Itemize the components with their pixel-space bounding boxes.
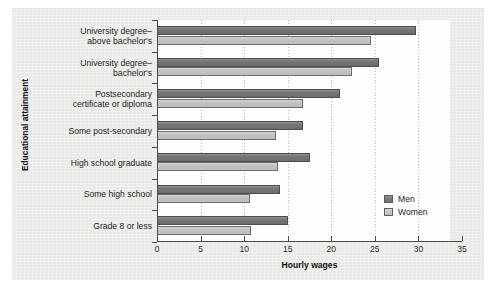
- category-label-line: Postsecondary: [24, 89, 152, 99]
- category-label-3: Some post-secondary: [24, 126, 152, 136]
- category-label-2: Postsecondarycertificate or diploma: [24, 89, 152, 109]
- x-tick-label-35: 35: [457, 244, 466, 254]
- x-tick-20: [331, 236, 332, 241]
- category-label-line: University degree–: [24, 26, 152, 36]
- bar-women-0: [157, 36, 371, 45]
- bar-women-3: [157, 131, 276, 140]
- y-tick-2: [152, 83, 157, 84]
- category-label-line: certificate or diploma: [24, 99, 152, 109]
- category-label-line: University degree–: [24, 58, 152, 68]
- category-label-0: University degree–above bachelor's: [24, 26, 152, 46]
- bar-women-4: [157, 162, 278, 171]
- bar-men-4: [157, 153, 310, 162]
- x-tick-label-0: 0: [155, 244, 160, 254]
- x-tick-25: [375, 236, 376, 241]
- x-tick-10: [244, 236, 245, 241]
- legend-swatch-men-icon: [384, 195, 393, 203]
- bar-men-3: [157, 121, 303, 130]
- gridline-20: [331, 20, 332, 242]
- category-labels: University degree–above bachelor'sUniver…: [20, 8, 152, 280]
- category-label-4: High school graduate: [24, 158, 152, 168]
- x-tick-label-15: 15: [283, 244, 292, 254]
- x-axis-title: Hourly wages: [157, 260, 462, 270]
- category-label-line: above bachelor's: [24, 36, 152, 46]
- legend-item-men: Men: [384, 194, 427, 204]
- category-label-5: Some high school: [24, 189, 152, 199]
- bar-men-1: [157, 58, 379, 67]
- x-tick-0: [157, 236, 158, 241]
- legend-swatch-women-icon: [384, 208, 393, 216]
- y-axis-line: [157, 20, 158, 242]
- bar-women-2: [157, 99, 303, 108]
- bar-women-5: [157, 194, 250, 203]
- category-label-line: bachelor's: [24, 68, 152, 78]
- x-tick-label-30: 30: [414, 244, 423, 254]
- bar-men-6: [157, 216, 288, 225]
- y-tick-6: [152, 210, 157, 211]
- y-tick-0: [152, 20, 157, 21]
- bar-women-6: [157, 226, 251, 235]
- y-tick-3: [152, 115, 157, 116]
- x-tick-30: [418, 236, 419, 241]
- category-label-line: Some post-secondary: [24, 126, 152, 136]
- chart-figure: 05101520253035 University degree–above b…: [12, 8, 484, 280]
- bar-men-0: [157, 26, 416, 35]
- category-label-1: University degree–bachelor's: [24, 58, 152, 78]
- gridline-15: [288, 20, 289, 242]
- chart-legend: Men Women: [384, 194, 427, 220]
- y-tick-5: [152, 179, 157, 180]
- bar-women-1: [157, 67, 352, 76]
- category-label-line: Grade 8 or less: [24, 221, 152, 231]
- y-axis-title: Educational attainment: [20, 50, 30, 200]
- x-tick-label-5: 5: [198, 244, 203, 254]
- legend-item-women: Women: [384, 207, 427, 217]
- x-tick-label-20: 20: [327, 244, 336, 254]
- legend-label-women: Women: [398, 207, 427, 217]
- category-label-line: High school graduate: [24, 158, 152, 168]
- x-tick-5: [201, 236, 202, 241]
- y-tick-7: [152, 242, 157, 243]
- y-tick-4: [152, 147, 157, 148]
- legend-label-men: Men: [398, 194, 415, 204]
- bar-men-2: [157, 89, 340, 98]
- gridline-25: [375, 20, 376, 242]
- category-label-6: Grade 8 or less: [24, 221, 152, 231]
- y-tick-1: [152, 52, 157, 53]
- x-tick-label-10: 10: [239, 244, 248, 254]
- x-tick-15: [288, 236, 289, 241]
- x-axis-line: [157, 241, 462, 242]
- x-tick-35: [462, 236, 463, 241]
- x-tick-label-25: 25: [370, 244, 379, 254]
- category-label-line: Some high school: [24, 189, 152, 199]
- bar-men-5: [157, 185, 280, 194]
